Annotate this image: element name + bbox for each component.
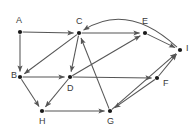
graph-canvas: ACEIBDFHG <box>0 0 192 130</box>
graph-node-e[interactable] <box>143 31 147 35</box>
graph-node-label-b: B <box>11 70 17 80</box>
graph-edge-c-d <box>71 36 78 72</box>
edges-group <box>20 19 177 111</box>
graph-node-label-e: E <box>142 16 148 26</box>
graph-node-c[interactable] <box>77 31 81 35</box>
directed-graph-figure: ACEIBDFHG <box>0 0 192 130</box>
graph-node-label-c: C <box>76 16 83 26</box>
graph-node-label-g: G <box>107 116 114 126</box>
graph-node-b[interactable] <box>18 75 22 79</box>
graph-node-label-h: H <box>39 116 46 126</box>
graph-node-label-d: D <box>67 83 74 93</box>
graph-edge-a-c <box>23 32 74 33</box>
graph-node-h[interactable] <box>40 109 44 113</box>
graph-node-a[interactable] <box>18 30 22 34</box>
graph-node-g[interactable] <box>108 109 112 113</box>
graph-edge-f-i <box>159 54 177 76</box>
graph-node-label-a: A <box>16 15 22 25</box>
graph-edge-g-c <box>81 38 109 109</box>
graph-edge-d-h <box>45 79 68 107</box>
graph-edge-d-f <box>73 77 152 78</box>
graph-node-d[interactable] <box>68 75 72 79</box>
graph-edge-b-h <box>21 79 39 106</box>
graph-edge-c-b <box>24 35 77 74</box>
graph-edge-e-i <box>147 34 175 48</box>
graph-edge-f-g <box>114 79 154 107</box>
graph-node-i[interactable] <box>178 48 182 52</box>
graph-node-f[interactable] <box>155 76 159 80</box>
graph-node-label-f: F <box>163 78 169 88</box>
graph-node-label-i: I <box>186 43 189 53</box>
